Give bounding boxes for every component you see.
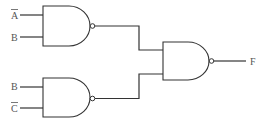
input-label-c: C bbox=[11, 103, 18, 114]
input-label-b-bottom: B bbox=[11, 81, 18, 92]
nand-gate-2-body bbox=[43, 78, 90, 117]
input-label-a: A bbox=[11, 10, 19, 21]
nand-gate-2 bbox=[43, 78, 95, 117]
nand-gate-3-body bbox=[163, 42, 209, 80]
nand-gate-1-body bbox=[43, 6, 90, 46]
input-a-not: A bbox=[11, 10, 19, 22]
wire-nand1-to-nand3 bbox=[95, 26, 163, 50]
input-label-b-top: B bbox=[11, 32, 18, 43]
input-c-not: C bbox=[11, 103, 18, 115]
nand-gate-1 bbox=[43, 6, 95, 46]
logic-circuit-diagram: A B B C F bbox=[0, 0, 262, 124]
wire-nand2-to-nand3 bbox=[95, 74, 163, 99]
output-label-f: F bbox=[250, 56, 256, 67]
nand-gate-2-inverter-bubble bbox=[90, 96, 95, 101]
nand-gate-3 bbox=[163, 42, 214, 80]
nand-gate-3-inverter-bubble bbox=[209, 59, 214, 64]
nand-gate-1-inverter-bubble bbox=[90, 24, 95, 29]
